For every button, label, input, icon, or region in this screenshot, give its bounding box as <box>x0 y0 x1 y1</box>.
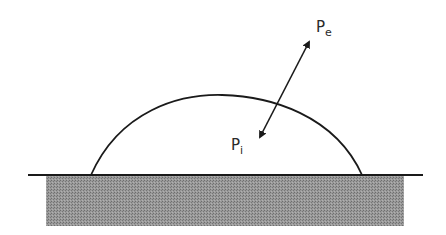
external-pressure-subscript: e <box>325 26 332 39</box>
external-pressure-symbol: P <box>316 18 325 36</box>
internal-pressure-subscript: i <box>240 144 243 157</box>
internal-pressure-symbol: P <box>231 136 240 154</box>
droplet-diagram <box>0 0 446 235</box>
pressure-double-arrow-icon <box>260 42 309 137</box>
droplet-arc <box>91 95 362 175</box>
external-pressure-label: Pe <box>316 20 332 38</box>
substrate-block <box>46 176 404 226</box>
internal-pressure-label: Pi <box>231 138 243 156</box>
